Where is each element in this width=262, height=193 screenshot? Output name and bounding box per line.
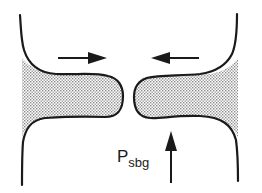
- pressure-subscript: sbg: [128, 155, 149, 170]
- right-pointing-arrow-icon: [58, 52, 107, 64]
- pressure-symbol: P: [117, 147, 128, 166]
- left-shaded-region: [22, 58, 123, 138]
- up-arrow-icon: [165, 131, 177, 183]
- pressure-label: Psbg: [117, 147, 149, 167]
- diagram-canvas: Psbg: [0, 0, 262, 193]
- left-pointing-arrow-icon: [151, 52, 199, 64]
- right-shaded-region: [134, 58, 238, 138]
